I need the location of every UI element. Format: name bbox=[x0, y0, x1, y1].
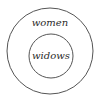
inner-set-label: widows bbox=[32, 50, 70, 61]
outer-set-label: women bbox=[32, 17, 68, 28]
euler-diagram: women widows bbox=[0, 0, 98, 103]
